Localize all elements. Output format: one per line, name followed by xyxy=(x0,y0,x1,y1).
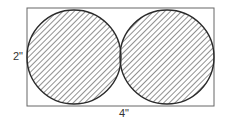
right-circle xyxy=(120,10,214,104)
height-label: 2" xyxy=(13,51,23,62)
diagram-canvas xyxy=(0,0,228,123)
left-circle xyxy=(27,10,121,104)
width-label: 4" xyxy=(119,108,129,119)
